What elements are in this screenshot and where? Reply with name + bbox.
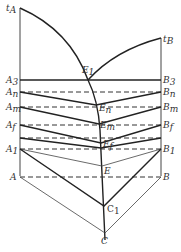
section-C1 xyxy=(20,149,161,206)
section-C xyxy=(20,177,161,233)
label-An: An xyxy=(5,87,19,99)
label-E1: E1 xyxy=(81,65,94,77)
label-En: En xyxy=(98,103,112,115)
phase-diagram: tA tB E1 A3 B3 An Bn En Am Bm Em Af Bf E… xyxy=(0,0,181,252)
section-m xyxy=(20,107,161,124)
label-A1: A1 xyxy=(5,144,18,156)
label-Em: Em xyxy=(99,120,115,132)
label-A3: A3 xyxy=(5,75,19,87)
section-unlabeled xyxy=(20,138,161,148)
label-B1: B1 xyxy=(162,144,175,156)
label-tA: tA xyxy=(6,3,17,15)
curve-tA-E1 xyxy=(20,8,88,80)
label-C: C xyxy=(101,236,108,246)
label-Af: Af xyxy=(5,120,17,132)
label-Bf: Bf xyxy=(162,120,175,132)
curve-tB-E1 xyxy=(88,38,161,80)
label-C1: C1 xyxy=(107,204,120,216)
label-B3: B3 xyxy=(162,75,176,87)
label-A: A xyxy=(9,172,17,182)
label-Am: Am xyxy=(5,102,21,114)
label-Bm: Bm xyxy=(162,102,178,114)
label-E: E xyxy=(103,166,111,176)
label-B: B xyxy=(162,172,170,182)
label-Bn: Bn xyxy=(162,87,176,99)
section-n xyxy=(20,92,161,105)
label-tB: tB xyxy=(163,34,174,46)
